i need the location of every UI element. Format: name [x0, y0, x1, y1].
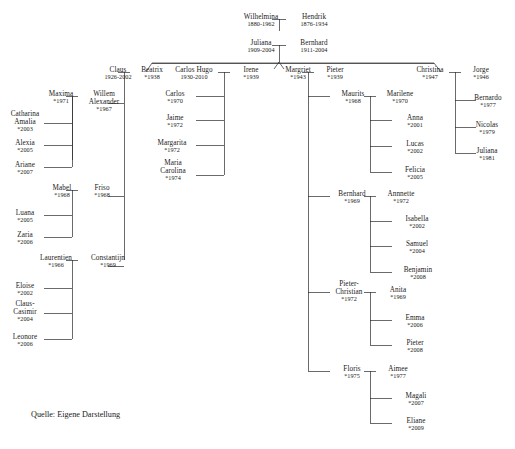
person-pieter-christian: Pieter- Christian *1972: [322, 281, 376, 303]
person-dates: *1975: [330, 373, 374, 379]
person-maurits: Maurits *1968: [330, 91, 376, 105]
person-emma: Emma *2006: [392, 315, 438, 329]
person-dates: 1909-2004: [230, 47, 292, 53]
person-bernhard-jr: Bernhard *1969: [326, 191, 378, 205]
person-maria-carolina: Maria Carolina *1974: [148, 160, 198, 182]
person-dates: *1968: [330, 98, 376, 104]
person-dates: *1977: [376, 373, 420, 379]
person-dates: *2003: [2, 126, 48, 132]
person-dates: *1969: [80, 262, 136, 268]
person-aimee: Aimee *1977: [376, 366, 420, 380]
person-dates: *1981: [462, 155, 512, 161]
person-dates: *2006: [2, 239, 48, 245]
person-magali: Magali *2007: [392, 393, 440, 407]
person-dates: *1972: [322, 296, 376, 302]
person-dates: *2006: [392, 322, 438, 328]
person-claus-casimir: Claus- Casimir *2004: [2, 301, 48, 323]
person-dates: *2005: [2, 147, 48, 153]
person-zaria: Zaria *2006: [2, 232, 48, 246]
person-dates: *1966: [28, 262, 84, 268]
person-eliane: Eliane *2009: [392, 418, 440, 432]
person-leonore: Leonore *2006: [2, 334, 48, 348]
person-dates: *2008: [392, 274, 444, 280]
person-hendrik: Hendrik 1876-1934: [286, 14, 342, 28]
person-dates: *1972: [146, 147, 198, 153]
person-dates: *1970: [152, 98, 198, 104]
person-wilhelmina: Wilhelmina 1880-1962: [230, 14, 292, 28]
person-anita: Anita *1969: [376, 287, 420, 301]
person-dates: *1974: [148, 175, 198, 181]
person-willem-alexander: Willem Alexander *1967: [78, 91, 130, 113]
person-friso: Friso *1968: [80, 185, 124, 199]
person-dates: *2005: [392, 174, 438, 180]
person-anna: Anna *2001: [392, 115, 438, 129]
person-marilene: Marilene *1970: [376, 91, 424, 105]
person-constantijn: Constantijn *1969: [80, 255, 136, 269]
person-irene: Irene *1939: [230, 67, 272, 81]
person-catharina-amalia: Catharina Amalia *2003: [2, 111, 48, 133]
person-dates: *1968: [40, 192, 84, 198]
person-dates: *1939: [230, 74, 272, 80]
person-dates: *2008: [392, 347, 438, 353]
person-dates: *2007: [392, 400, 440, 406]
person-bernhard-sr: Bernhard 1911-2004: [286, 40, 342, 54]
person-dates: *1939: [314, 74, 356, 80]
person-dates: *2002: [392, 148, 438, 154]
person-dates: *1977: [462, 102, 514, 108]
person-dates: *1969: [376, 294, 420, 300]
person-dates: *2002: [392, 223, 442, 229]
person-isabella: Isabella *2002: [392, 216, 442, 230]
person-felicia: Felicia *2005: [392, 167, 438, 181]
person-nicolas: Nicolas *1979: [462, 122, 512, 136]
person-alexia: Alexia *2005: [2, 140, 48, 154]
person-dates: *1979: [462, 129, 512, 135]
person-benjamin: Benjamin *2008: [392, 267, 444, 281]
person-dates: *2005: [2, 217, 48, 223]
person-carlos: Carlos *1970: [152, 91, 198, 105]
person-carlos-hugo: Carlos Hugo 1930-2010: [164, 67, 224, 81]
person-dates: *1947: [405, 74, 455, 80]
person-luana: Luana *2005: [2, 210, 48, 224]
person-dates: *2009: [392, 425, 440, 431]
person-annnette: Annnette *1972: [376, 191, 426, 205]
person-dates: *2004: [392, 248, 442, 254]
person-dates: *2001: [392, 122, 438, 128]
person-dates: *2007: [2, 169, 48, 175]
person-dates: *2004: [2, 316, 48, 322]
person-dates: *1972: [152, 122, 198, 128]
person-jorge: Jorge *1946: [461, 67, 501, 81]
person-juliana: Juliana 1909-2004: [230, 40, 292, 54]
person-dates: 1911-2004: [286, 47, 342, 53]
person-laurentien: Laurentien *1966: [28, 255, 84, 269]
person-dates: *1969: [326, 198, 378, 204]
person-lucas: Lucas *2002: [392, 141, 438, 155]
person-dates: *2002: [2, 290, 48, 296]
person-mabel: Mabel *1968: [40, 185, 84, 199]
person-juliana-jr: Juliana *1981: [462, 148, 512, 162]
person-dates: *1967: [78, 106, 130, 112]
person-dates: *1946: [461, 74, 501, 80]
person-christina: Christina *1947: [405, 67, 455, 81]
person-dates: *1968: [80, 192, 124, 198]
person-margarita: Margarita *1972: [146, 140, 198, 154]
person-floris: Floris *1975: [330, 366, 374, 380]
person-dates: 1930-2010: [164, 74, 224, 80]
person-dates: *2006: [2, 341, 48, 347]
person-dates: 1876-1934: [286, 21, 342, 27]
person-jaime: Jaime *1972: [152, 115, 198, 129]
source-caption: Quelle: Eigene Darstellung: [31, 410, 120, 419]
person-bernardo: Bernardo *1977: [462, 95, 514, 109]
person-ariane: Ariane *2007: [2, 162, 48, 176]
person-samuel: Samuel *2004: [392, 241, 442, 255]
person-dates: 1880-1962: [230, 21, 292, 27]
person-dates: *1970: [376, 98, 424, 104]
person-dates: *1972: [376, 198, 426, 204]
person-pieter-sr: Pieter *1939: [314, 67, 356, 81]
person-eloise: Eloise *2002: [2, 283, 48, 297]
person-pieter-jr: Pieter *2008: [392, 340, 438, 354]
